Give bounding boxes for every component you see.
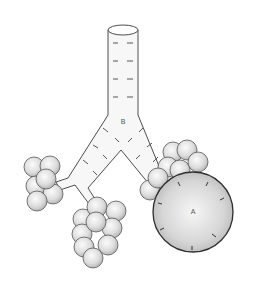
lung-airway-diagram: B (0, 0, 255, 289)
enlarged-alveolus: A (153, 172, 233, 252)
label-a: A (191, 208, 196, 215)
label-b: B (121, 118, 126, 125)
trachea-opening (108, 25, 138, 35)
alveolar-cluster-lower (72, 197, 126, 268)
